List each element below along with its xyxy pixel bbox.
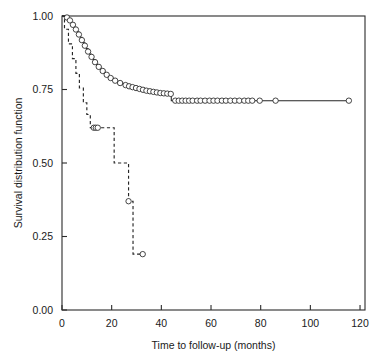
y-tick-label: 1.00 xyxy=(33,10,54,22)
axis-tick-labels-y: 0.000.250.500.751.00 xyxy=(33,10,54,316)
solid-survival-curve xyxy=(62,16,349,101)
censor-marker xyxy=(79,37,84,42)
censor-marker xyxy=(89,54,94,59)
axis-tick-labels-x: 020406080100120 xyxy=(59,317,369,329)
y-axis-title: Survival distribution function xyxy=(12,97,24,228)
survival-chart-figure: 0.000.250.500.751.00 020406080100120 Tim… xyxy=(0,0,384,362)
censor-marker xyxy=(126,199,131,204)
x-axis-title: Time to follow-up (months) xyxy=(152,339,276,351)
censor-marker xyxy=(82,43,87,48)
x-tick-label: 120 xyxy=(351,317,369,329)
y-tick-label: 0.75 xyxy=(33,83,54,95)
censor-marker xyxy=(92,59,97,64)
survival-plot-svg: 0.000.250.500.751.00 020406080100120 Tim… xyxy=(0,0,384,362)
censor-marker xyxy=(76,32,81,37)
censor-marker xyxy=(168,91,173,96)
x-tick-label: 80 xyxy=(255,317,267,329)
censor-marker xyxy=(250,98,255,103)
censor-marker xyxy=(73,27,78,32)
censor-marker xyxy=(257,98,262,103)
series-2 xyxy=(62,16,145,257)
y-tick-label: 0.50 xyxy=(33,157,54,169)
x-tick-label: 40 xyxy=(156,317,168,329)
censor-marker xyxy=(140,251,145,256)
censor-marker xyxy=(95,125,100,130)
x-tick-label: 0 xyxy=(59,317,65,329)
censor-marker xyxy=(85,49,90,54)
series-1 xyxy=(62,15,352,104)
plot-frame xyxy=(62,16,365,310)
x-tick-label: 60 xyxy=(205,317,217,329)
dashed-survival-curve xyxy=(62,16,143,254)
data-series-group xyxy=(62,15,352,257)
y-tick-label: 0.25 xyxy=(33,230,54,242)
censor-marker xyxy=(117,80,122,85)
censor-marker xyxy=(346,98,351,103)
y-tick-label: 0.00 xyxy=(33,304,54,316)
x-tick-label: 20 xyxy=(106,317,118,329)
censor-marker xyxy=(273,98,278,103)
x-tick-label: 100 xyxy=(302,317,320,329)
axis-ticks xyxy=(62,16,360,310)
